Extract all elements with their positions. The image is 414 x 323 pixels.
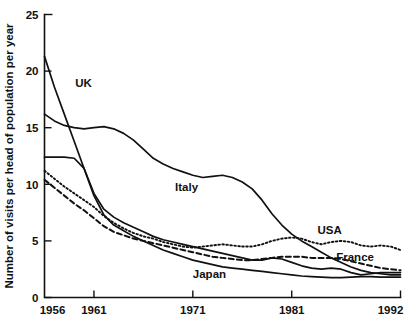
chart-container: 051015202519561961197119811992 UKItalyJa… <box>0 0 414 323</box>
x-tick-label-1956: 1956 <box>40 304 66 316</box>
chart-series-labels: UKItalyJapanUSAFrance <box>75 77 374 280</box>
series-label-usa: USA <box>317 224 341 236</box>
y-tick-label-20: 20 <box>26 65 39 77</box>
series-label-italy: Italy <box>175 181 199 193</box>
x-tick-label-1961: 1961 <box>81 304 107 316</box>
y-tick-label-15: 15 <box>26 122 39 134</box>
y-tick-label-10: 10 <box>26 179 39 191</box>
series-label-japan: Japan <box>193 268 226 280</box>
y-tick-label-25: 25 <box>26 9 39 21</box>
y-axis-title: Number of visits per head of population … <box>3 23 15 289</box>
chart-series <box>45 56 401 277</box>
y-tick-label-5: 5 <box>32 235 39 247</box>
x-tick-label-1992: 1992 <box>378 304 404 316</box>
series-label-uk: UK <box>75 77 92 89</box>
chart-axis-titles: Number of visits per head of population … <box>3 23 15 289</box>
line-chart: 051015202519561961197119811992 UKItalyJa… <box>0 0 414 323</box>
series-label-france: France <box>336 251 374 263</box>
y-tick-label-0: 0 <box>32 292 38 304</box>
x-tick-label-1981: 1981 <box>279 304 305 316</box>
x-tick-label-1971: 1971 <box>180 304 206 316</box>
series-line-usa <box>45 171 401 250</box>
